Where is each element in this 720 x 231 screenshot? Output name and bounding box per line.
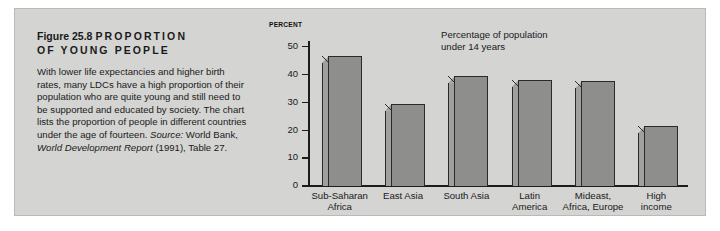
bar-top-bevel-edge: [448, 76, 455, 83]
bar: [512, 80, 552, 186]
source-prefix: Source:: [150, 129, 183, 140]
y-tick-label: 0: [293, 179, 298, 190]
bar-chart: PERCENT Percentage of population under 1…: [263, 15, 703, 211]
bar: [575, 81, 615, 186]
bar-front-face: [518, 80, 552, 186]
source-report-title: World Development Report: [37, 142, 153, 153]
category-label: Mideast, Africa, Europe: [561, 190, 624, 213]
figure-title-line2: OF YOUNG PEOPLE: [37, 44, 170, 56]
bar-front-face: [328, 56, 362, 186]
y-tick-label: 40: [287, 68, 298, 79]
bar-front-face: [644, 126, 678, 186]
plot-area: 01020304050 Sub-Saharan AfricaEast AsiaS…: [263, 15, 703, 211]
category-label: South Asia: [435, 190, 498, 201]
figure-body-text: With lower life expectancies and higher …: [37, 66, 251, 154]
source-publisher: World Bank,: [183, 129, 238, 140]
y-tick-label: 50: [287, 40, 298, 51]
bar: [638, 126, 678, 186]
bar: [385, 104, 425, 186]
bar-top-bevel-edge: [638, 126, 645, 133]
bar-front-face: [454, 76, 488, 186]
bar-top-bevel-edge: [512, 80, 519, 87]
category-label: Latin America: [498, 190, 561, 213]
bar-front-face: [391, 104, 425, 186]
category-label: Sub-Saharan Africa: [308, 190, 371, 213]
figure-title-line1: PROPORTION: [95, 30, 187, 42]
bar: [448, 76, 488, 186]
y-tick-label: 10: [287, 151, 298, 162]
y-tick-label: 20: [287, 124, 298, 135]
bar: [322, 56, 362, 186]
figure-number: Figure 25.8: [37, 30, 92, 42]
figure-title: Figure 25.8 PROPORTION OF YOUNG PEOPLE: [37, 29, 251, 57]
y-tick-label: 30: [287, 96, 298, 107]
bar-top-bevel-edge: [575, 81, 582, 88]
category-label: East Asia: [371, 190, 434, 201]
bar-top-bevel-edge: [385, 104, 392, 111]
source-citation-tail: (1991), Table 27.: [153, 142, 228, 153]
figure-panel: Figure 25.8 PROPORTION OF YOUNG PEOPLE W…: [14, 8, 706, 216]
figure-caption-column: Figure 25.8 PROPORTION OF YOUNG PEOPLE W…: [37, 29, 251, 154]
bar-front-face: [581, 81, 615, 186]
bars-layer: [308, 41, 688, 186]
category-label: High income: [625, 190, 688, 213]
bar-top-bevel-edge: [322, 56, 329, 63]
